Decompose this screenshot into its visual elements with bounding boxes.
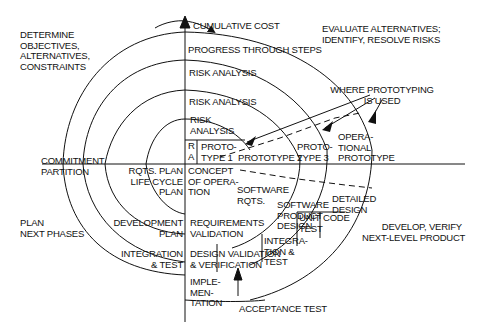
quadrant-plan-next-phases: PLAN NEXT PHASES [20,218,84,239]
development-plan: DEVELOPMENT PLAN [108,218,183,239]
operational-prototype: OPERA- TIONAL PROTOTYPE [338,132,395,164]
integration-and-test-plan: INTEGRATION & TEST [108,249,183,270]
unit-test: UNIT TEST [299,213,322,234]
prototype-1: PROTO- TYPE 1 [201,142,237,163]
implementation: IMPLE- MEN- TATION [190,277,222,309]
risk-analysis-1: RISK ANALYSIS [189,68,256,79]
concept-of-operation: CONCEPT OF OPERA- TION [188,166,238,198]
quadrant-evaluate-alternatives: EVALUATE ALTERNATIVES; IDENTIFY, RESOLVE… [322,24,440,45]
quadrant-determine-objectives: DETERMINE OBJECTIVES, ALTERNATIVES, CONS… [20,30,90,72]
risk-analysis-2: RISK ANALYSIS [189,97,256,108]
prototype-2: PROTOTYPE 2 [238,153,302,164]
code: CODE [323,213,350,224]
design-validation-verification: DESIGN VALIDATION & VERIFICATION [190,249,281,270]
quadrant-develop-verify: DEVELOP, VERIFY NEXT-LEVEL PRODUCT [362,222,462,243]
acceptance-test: ACCEPTANCE TEST [239,304,327,315]
requirements-validation: REQUIREMENTS VALIDATION [190,218,264,239]
commitment-partition-label: COMMITMENT PARTITION [41,156,104,177]
prototype-3: PROTO- TYPE 3 [297,142,333,163]
rqts-plan-life-cycle-plan: RQTS. PLAN LIFE CYCLE PLAN [108,166,183,198]
prototyping-note: WHERE PROTOTYPING IS USED [327,85,437,106]
progress-label: PROGRESS THROUGH STEPS [188,45,322,56]
cumulative-cost-label: CUMULATIVE COST [193,21,280,32]
risk-analysis-4: R A [188,141,195,162]
risk-analysis-3: RISK ANALYSIS [190,115,234,136]
